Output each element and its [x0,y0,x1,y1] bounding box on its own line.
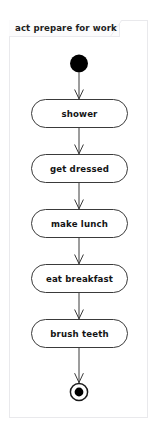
action-node-brush-teeth[interactable] [32,320,128,348]
diagram-graphics-layer [0,0,158,431]
initial-node[interactable] [70,55,88,73]
edge-get-dressed-to-make-lunch [75,183,84,209]
action-node-eat-breakfast[interactable] [32,265,128,293]
action-node-shower[interactable] [32,100,128,128]
activity-final-node[interactable] [70,383,87,400]
edge-eat-breakfast-to-brush-teeth [75,293,84,319]
action-node-make-lunch[interactable] [32,210,128,238]
edge-make-lunch-to-eat-breakfast [75,238,84,264]
activity-diagram-canvas: act prepare for work [0,0,158,431]
edge-brush-teeth-to-final [75,348,84,383]
action-node-get-dressed[interactable] [32,155,128,183]
edge-initial-to-shower [75,73,84,100]
edge-shower-to-get-dressed [75,128,84,154]
